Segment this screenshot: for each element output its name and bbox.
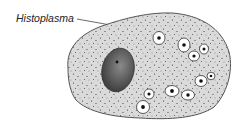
- organism: [189, 51, 200, 61]
- organism: [137, 101, 150, 114]
- organism: [182, 90, 195, 100]
- histoplasma-cell-diagram: Histoplasma: [0, 0, 246, 127]
- organism: [178, 38, 190, 52]
- organism: [153, 32, 165, 45]
- organism: [200, 44, 209, 54]
- histoplasma-label: Histoplasma: [16, 12, 74, 24]
- nucleolus: [116, 61, 119, 64]
- organism: [165, 86, 179, 97]
- macrophage-cell-outline: [68, 13, 231, 119]
- organism: [144, 89, 154, 99]
- organism: [207, 72, 215, 80]
- organism: [195, 76, 207, 87]
